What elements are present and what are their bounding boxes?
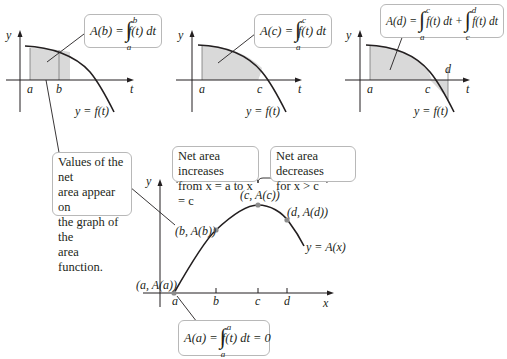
- increase-note-box: Net area increases from x = a to x = c: [172, 146, 259, 182]
- values-note-box: Values of the net area appear on the gra…: [52, 152, 132, 216]
- tick-a: a: [27, 82, 33, 97]
- tick-a: a: [172, 294, 178, 309]
- curve-label: y = f(t): [414, 104, 448, 119]
- y-axis-label: y: [146, 174, 151, 189]
- y-axis-label: y: [178, 28, 183, 43]
- point-d-label: (d, A(d)): [287, 205, 328, 220]
- tick-c: c: [257, 82, 262, 97]
- formula-box-A-b: A(b) = ∫ba f(t) dt: [84, 14, 162, 48]
- tick-c: c: [425, 82, 430, 97]
- point-b-label: (b, A(b)): [175, 224, 216, 239]
- integral-icon: ∫dc: [465, 6, 470, 36]
- y-axis-label: y: [6, 28, 11, 43]
- t-axis-label: t: [298, 82, 301, 97]
- panel-b-graph: [6, 30, 134, 158]
- integral-icon: ∫ca: [295, 16, 296, 46]
- tick-a: a: [199, 82, 205, 97]
- area-curve-label: y = A(x): [306, 240, 346, 255]
- panel-d-graph: [345, 30, 470, 112]
- t-axis-label: t: [466, 82, 469, 97]
- x-axis-label: x: [323, 296, 328, 311]
- tick-d: d: [284, 294, 290, 309]
- curve-label: y = f(t): [246, 104, 280, 119]
- decrease-note-box: Net area decreases for x > c: [270, 146, 356, 182]
- y-axis-label: y: [346, 28, 351, 43]
- formula-box-A-d: A(d) = ∫ca f(t) dt + ∫dc f(t) dt: [380, 4, 504, 38]
- point-a-label: (a, A(a)): [136, 278, 177, 293]
- integral-icon: ∫ca: [419, 6, 424, 36]
- t-axis-label: t: [130, 82, 133, 97]
- tick-c: c: [255, 294, 260, 309]
- tick-b: b: [213, 294, 219, 309]
- tick-d: d: [445, 62, 451, 77]
- shaded-area-a-to-b: [30, 48, 70, 80]
- formula-box-A-c: A(c) = ∫ca f(t) dt: [254, 14, 332, 48]
- tick-a: a: [367, 82, 373, 97]
- area-curve: [174, 205, 304, 293]
- point-c-label: (c, A(c)): [240, 188, 280, 203]
- tick-b: b: [56, 82, 62, 97]
- formula-box-A-a: A(a) = ∫aa f(t) dt = 0: [178, 320, 270, 356]
- curve-label: y = f(t): [75, 104, 109, 119]
